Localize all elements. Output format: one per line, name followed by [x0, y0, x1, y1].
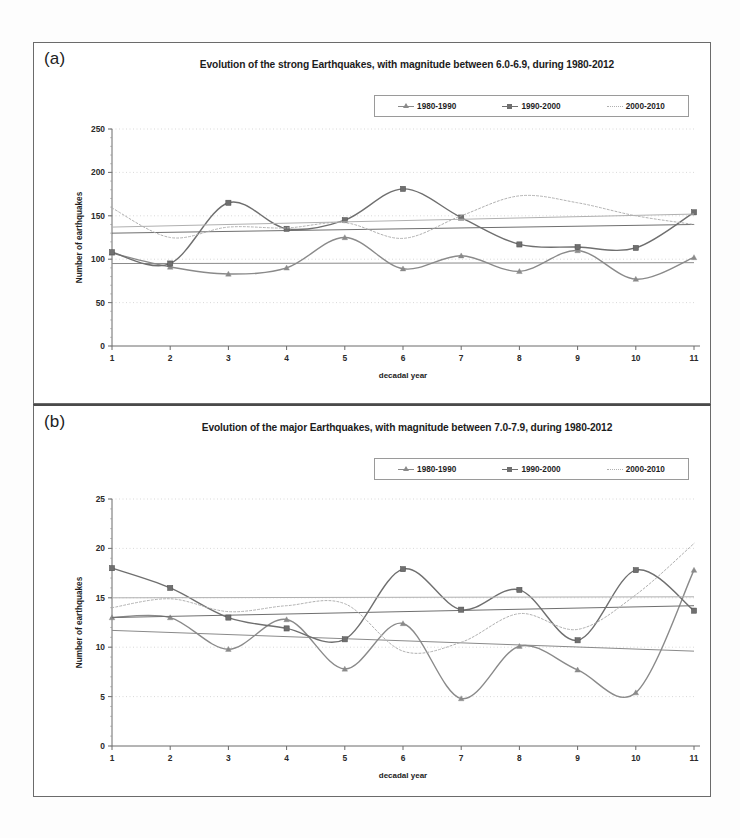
svg-text:2: 2	[168, 753, 173, 763]
svg-text:10: 10	[631, 753, 641, 763]
chart-panel-b: (b) Evolution of the major Earthquakes, …	[33, 404, 711, 797]
svg-text:9: 9	[575, 353, 580, 363]
svg-text:2: 2	[168, 353, 173, 363]
svg-text:5: 5	[342, 353, 347, 363]
svg-text:5: 5	[342, 753, 347, 763]
svg-text:6: 6	[401, 753, 406, 763]
svg-text:7: 7	[459, 753, 464, 763]
svg-text:15: 15	[96, 593, 106, 603]
svg-text:11: 11	[690, 353, 699, 363]
svg-text:0: 0	[100, 341, 105, 351]
svg-text:1: 1	[110, 353, 115, 363]
svg-text:10: 10	[96, 642, 106, 652]
svg-text:200: 200	[91, 167, 105, 177]
svg-text:decadal year: decadal year	[379, 771, 427, 780]
svg-text:8: 8	[517, 753, 522, 763]
plot-area-b: 05101520251234567891011decadal yearNumbe…	[34, 406, 712, 797]
svg-text:6: 6	[401, 353, 406, 363]
svg-text:decadal year: decadal year	[379, 371, 427, 380]
svg-text:10: 10	[631, 353, 641, 363]
svg-text:50: 50	[96, 298, 106, 308]
svg-text:5: 5	[100, 692, 105, 702]
svg-text:4: 4	[284, 753, 289, 763]
chart-panel-a: (a) Evolution of the strong Earthquakes,…	[33, 42, 711, 404]
svg-text:9: 9	[575, 753, 580, 763]
svg-text:0: 0	[100, 741, 105, 751]
svg-text:4: 4	[284, 353, 289, 363]
svg-text:8: 8	[517, 353, 522, 363]
svg-text:1: 1	[110, 753, 115, 763]
svg-text:7: 7	[459, 353, 464, 363]
svg-text:100: 100	[91, 254, 105, 264]
svg-text:250: 250	[91, 124, 105, 134]
svg-text:Number of earthquakes: Number of earthquakes	[75, 191, 84, 283]
svg-text:Number of earthquakes: Number of earthquakes	[75, 576, 84, 668]
figure-container: (a) Evolution of the strong Earthquakes,…	[0, 0, 740, 838]
svg-text:25: 25	[96, 494, 106, 504]
svg-text:11: 11	[690, 753, 699, 763]
svg-text:150: 150	[91, 211, 105, 221]
svg-text:20: 20	[96, 543, 106, 553]
plot-area-a: 0501001502002501234567891011decadal year…	[34, 43, 712, 403]
svg-text:3: 3	[226, 753, 231, 763]
svg-text:3: 3	[226, 353, 231, 363]
